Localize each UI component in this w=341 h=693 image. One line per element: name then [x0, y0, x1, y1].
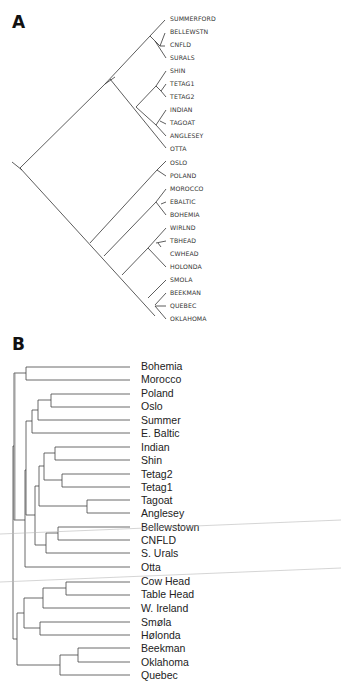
leaf-label: Smøla: [141, 616, 171, 628]
leaf-label: SMOLA: [170, 276, 193, 283]
tree-a-leaf-labels: SUMMERFORD BELLEWSTN CNFLD SURALS SHIN T…: [169, 15, 216, 322]
leaf-label: CNFLD: [141, 534, 176, 546]
leaf-label: BELLEWSTN: [170, 28, 209, 35]
tree-a-branches: [12, 20, 166, 319]
leaf-label: Cow Head: [141, 575, 190, 587]
leaf-label: CNFLD: [170, 41, 191, 48]
leaf-label: WIRLND: [170, 224, 196, 231]
leaf-label: TAGOAT: [169, 119, 195, 126]
leaf-label: Summer: [141, 414, 181, 426]
leaf-label: OTTA: [170, 145, 187, 152]
leaf-label: TBHEAD: [169, 237, 196, 244]
leaf-label: ANGLESEY: [170, 132, 204, 139]
leaf-label: Tetag2: [141, 468, 173, 480]
leaf-label: BOHEMIA: [170, 211, 200, 218]
leaf-label: Shin: [141, 454, 162, 466]
leaf-label: Morocco: [141, 373, 181, 385]
leaf-label: SURALS: [170, 54, 195, 61]
leaf-label: TETAG1: [169, 80, 194, 87]
leaf-label: Beekman: [141, 642, 186, 654]
leaf-label: E. Baltic: [141, 427, 180, 439]
leaf-label: Otta: [141, 561, 161, 573]
leaf-label: OSLO: [170, 159, 187, 166]
leaf-label: BEEKMAN: [170, 289, 201, 296]
leaf-label: S. Urals: [141, 547, 178, 559]
leaf-label: Anglesey: [141, 507, 185, 519]
tree-b-branches: [13, 367, 130, 675]
tree-b-leaf-labels: Bohemia Morocco Poland Oslo Summer E. Ba…: [141, 360, 200, 681]
leaf-label: Poland: [141, 387, 174, 399]
dendrogram-figure: SUMMERFORD BELLEWSTN CNFLD SURALS SHIN T…: [0, 0, 341, 693]
leaf-label: SHIN: [170, 67, 186, 74]
leaf-label: Tagoat: [141, 494, 173, 506]
leaf-label: Tetag1: [141, 481, 173, 493]
leaf-label: Table Head: [141, 588, 194, 600]
leaf-label: Indian: [141, 441, 170, 453]
leaf-label: W. Ireland: [141, 602, 188, 614]
leaf-label: HOLONDA: [170, 263, 203, 270]
leaf-label: Bohemia: [141, 360, 183, 372]
leaf-label: Quebec: [141, 669, 178, 681]
leaf-label: POLAND: [170, 172, 197, 179]
leaf-label: EBALTIC: [170, 198, 196, 205]
leaf-label: OKLAHOMA: [170, 315, 207, 322]
leaf-label: Oslo: [141, 400, 163, 412]
leaf-label: QUEBEC: [170, 302, 196, 309]
leaf-label: MOROCCO: [170, 185, 204, 192]
leaf-label: Hølonda: [141, 629, 181, 641]
leaf-label: Oklahoma: [141, 656, 189, 668]
leaf-label: CWHEAD: [170, 250, 199, 257]
leaf-label: TETAG2: [169, 93, 194, 100]
leaf-label: SUMMERFORD: [170, 15, 216, 22]
leaf-label: INDIAN: [170, 106, 193, 113]
